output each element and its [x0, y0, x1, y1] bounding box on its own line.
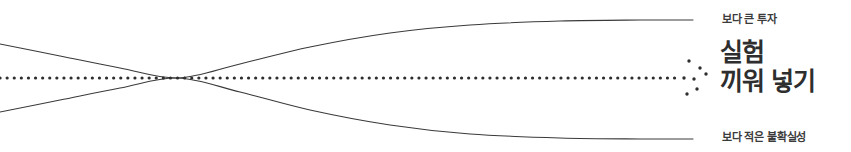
label-greater-investment: 보다 큰 투자 — [722, 12, 777, 26]
headline-line-1: 실험 — [720, 38, 815, 67]
annotation-layer: 보다 큰 투자 실험 끼워 넣기 보다 적은 불확실성 — [0, 0, 851, 152]
headline-line-2: 끼워 넣기 — [720, 67, 815, 96]
diagram-canvas: 보다 큰 투자 실험 끼워 넣기 보다 적은 불확실성 — [0, 0, 851, 152]
label-less-uncertainty: 보다 적은 불확실성 — [722, 130, 806, 144]
headline-block: 실험 끼워 넣기 — [720, 38, 815, 96]
